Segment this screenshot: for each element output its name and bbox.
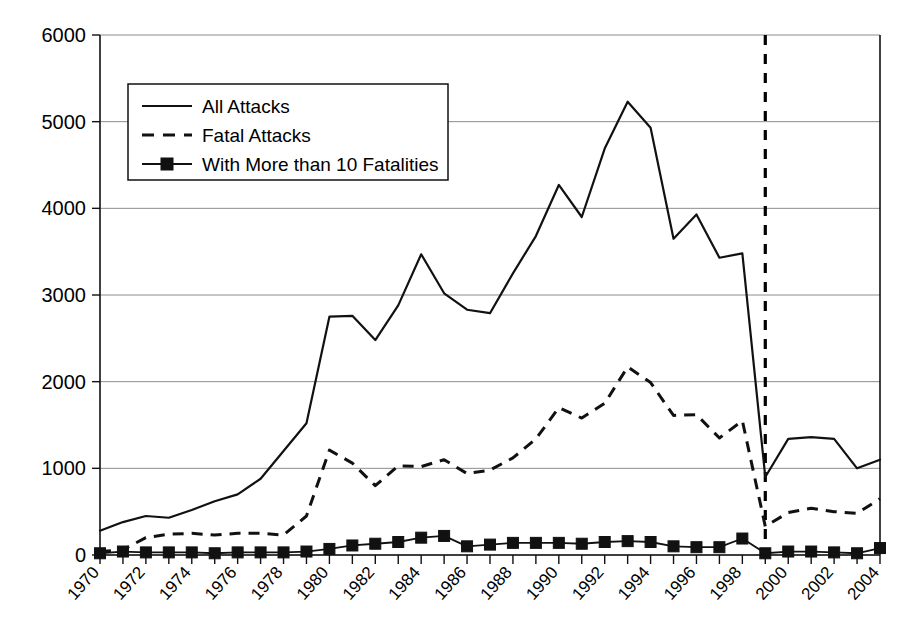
legend-item-label: All Attacks bbox=[202, 96, 290, 117]
data-point-marker bbox=[117, 546, 128, 557]
data-point-marker bbox=[439, 530, 450, 541]
data-point-marker bbox=[186, 547, 197, 558]
chart-container: 0100020003000400050006000 19701972197419… bbox=[0, 0, 911, 638]
data-point-marker bbox=[507, 537, 518, 548]
data-point-marker bbox=[324, 543, 335, 554]
legend-item-label: With More than 10 Fatalities bbox=[202, 154, 439, 175]
data-point-marker bbox=[760, 548, 771, 559]
data-point-marker bbox=[714, 542, 725, 553]
data-point-marker bbox=[875, 543, 886, 554]
data-point-marker bbox=[829, 547, 840, 558]
data-point-marker bbox=[393, 537, 404, 548]
y-tick-label-2000: 2000 bbox=[42, 371, 87, 393]
data-point-marker bbox=[553, 537, 564, 548]
data-point-marker bbox=[668, 541, 679, 552]
data-point-marker bbox=[140, 547, 151, 558]
legend-swatch-square-marker bbox=[161, 158, 173, 170]
data-point-marker bbox=[485, 539, 496, 550]
y-tick-label-3000: 3000 bbox=[42, 284, 87, 306]
data-point-marker bbox=[209, 548, 220, 559]
chart-legend: All AttacksFatal AttacksWith More than 1… bbox=[128, 84, 448, 180]
data-point-marker bbox=[462, 541, 473, 552]
line-chart: 0100020003000400050006000 19701972197419… bbox=[0, 0, 911, 638]
data-point-marker bbox=[347, 540, 358, 551]
data-point-marker bbox=[622, 536, 633, 547]
data-point-marker bbox=[255, 547, 266, 558]
data-point-marker bbox=[645, 537, 656, 548]
data-point-marker bbox=[370, 538, 381, 549]
data-point-marker bbox=[232, 547, 243, 558]
data-point-marker bbox=[806, 546, 817, 557]
data-point-marker bbox=[737, 533, 748, 544]
legend-item-label: Fatal Attacks bbox=[202, 125, 311, 146]
data-point-marker bbox=[783, 546, 794, 557]
y-tick-label-6000: 6000 bbox=[42, 24, 87, 46]
data-point-marker bbox=[691, 542, 702, 553]
data-point-marker bbox=[163, 547, 174, 558]
data-point-marker bbox=[416, 532, 427, 543]
data-point-marker bbox=[530, 537, 541, 548]
y-tick-label-4000: 4000 bbox=[42, 197, 87, 219]
y-tick-label-1000: 1000 bbox=[42, 457, 87, 479]
data-point-marker bbox=[301, 546, 312, 557]
y-tick-label-5000: 5000 bbox=[42, 111, 87, 133]
y-tick-label-0: 0 bbox=[75, 544, 86, 566]
data-point-marker bbox=[95, 548, 106, 559]
data-point-marker bbox=[599, 537, 610, 548]
data-point-marker bbox=[852, 548, 863, 559]
data-point-marker bbox=[278, 547, 289, 558]
data-point-marker bbox=[576, 538, 587, 549]
